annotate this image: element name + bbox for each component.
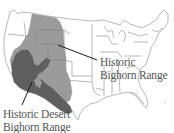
historic-label-line-1: Historic — [100, 56, 167, 69]
historic-label-line-2: Bighorn Range — [100, 69, 167, 82]
bighorn-range-map: Historic Bighorn Range Historic Desert B… — [0, 0, 174, 133]
desert-bighorn-label: Historic Desert Bighorn Range — [3, 108, 70, 133]
historic-bighorn-label: Historic Bighorn Range — [100, 56, 167, 82]
desert-label-line-1: Historic Desert — [3, 108, 70, 121]
desert-label-line-2: Bighorn Range — [3, 121, 70, 133]
edge-mark: : — [164, 101, 166, 107]
